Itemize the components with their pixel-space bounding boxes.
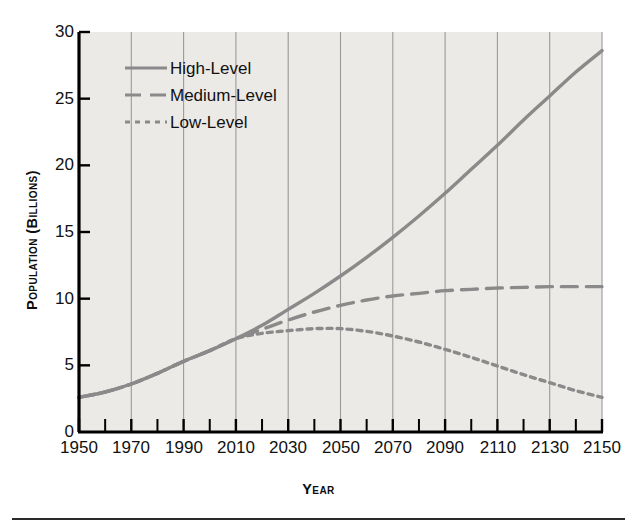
x-tick-label: 1990 <box>154 438 214 458</box>
x-tick-label: 1950 <box>49 438 109 458</box>
population-projection-chart: Population (Billions) Year 30 25 20 15 1… <box>0 0 637 528</box>
y-tick-label: 20 <box>40 155 74 175</box>
x-tick-label: 2070 <box>363 438 423 458</box>
y-tick-label: 10 <box>40 289 74 309</box>
footer-rule <box>12 518 625 520</box>
x-tick-label: 2150 <box>572 438 632 458</box>
x-tick-label: 2130 <box>520 438 580 458</box>
x-tick-label: 2090 <box>415 438 475 458</box>
y-tick-label: 5 <box>40 355 74 375</box>
legend-label: Medium-Level <box>170 86 277 105</box>
x-axis-title: Year <box>0 481 637 497</box>
x-tick-label: 2110 <box>468 438 528 458</box>
x-tick-label: 2030 <box>258 438 318 458</box>
legend-label: Low-Level <box>170 113 248 132</box>
y-tick-label: 30 <box>40 22 74 42</box>
x-tick-label: 1970 <box>101 438 161 458</box>
x-axis-ticks <box>79 419 602 432</box>
y-tick-label: 25 <box>40 89 74 109</box>
legend-label: High-Level <box>170 59 251 78</box>
x-tick-label: 2010 <box>206 438 266 458</box>
y-tick-label: 15 <box>40 222 74 242</box>
x-tick-label: 2050 <box>311 438 371 458</box>
